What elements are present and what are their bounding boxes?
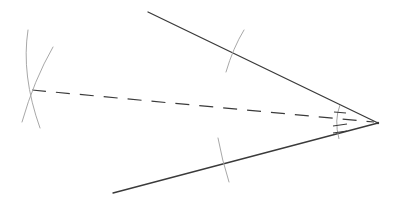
angle-tick-lower-1 [333,124,347,126]
intersection-arc-left [26,30,40,128]
vertex-point [377,122,379,124]
angle-tick-upper [334,112,346,113]
bisector-line [32,90,374,122]
construction-arc-lower [218,138,229,182]
angle-bisector-diagram [0,0,400,207]
lower-ray [113,123,378,193]
upper-ray [148,12,378,123]
